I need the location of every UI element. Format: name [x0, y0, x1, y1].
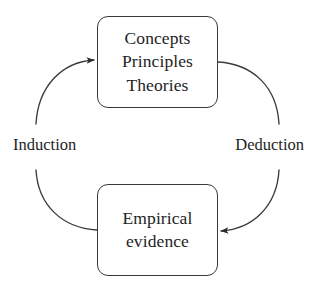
- deduction-arc-upper-segment: [218, 62, 279, 124]
- node-empirical-evidence[interactable]: Empirical evidence: [97, 184, 218, 276]
- edge-label-deduction: Deduction: [232, 135, 307, 156]
- induction-arc-upper-segment-with-arrowhead: [36, 60, 94, 124]
- node-evidence-line-1: Empirical: [123, 207, 193, 230]
- node-concepts-principles-theories[interactable]: Concepts Principles Theories: [97, 16, 218, 108]
- node-evidence-line-2: evidence: [126, 230, 189, 253]
- node-theory-line-3: Theories: [126, 74, 188, 97]
- node-theory-line-2: Principles: [122, 50, 193, 73]
- deduction-arc-lower-segment-with-arrowhead: [221, 170, 279, 231]
- induction-arc-lower-segment: [36, 170, 97, 230]
- edge-label-induction: Induction: [10, 135, 79, 156]
- node-theory-line-1: Concepts: [125, 27, 191, 50]
- research-cycle-diagram: Concepts Principles Theories Empirical e…: [0, 0, 315, 292]
